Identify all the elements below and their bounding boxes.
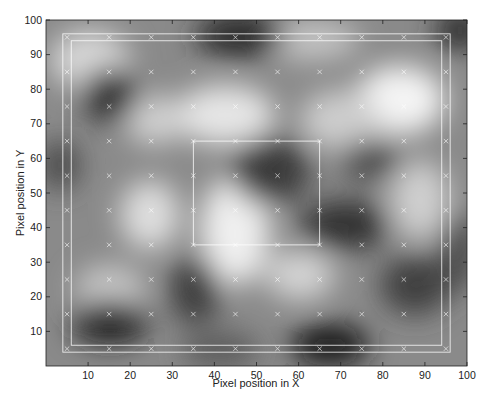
x-tick-label: 80 (377, 369, 389, 381)
heatmap-figure: 102030405060708090100 102030405060708090… (0, 0, 487, 403)
y-tick-label: 50 (30, 187, 42, 199)
x-tick-label: 20 (124, 369, 136, 381)
y-tick-label: 80 (30, 83, 42, 95)
x-tick-label: 70 (335, 369, 347, 381)
y-tick-label: 60 (30, 152, 42, 164)
y-tick-label: 30 (30, 256, 42, 268)
y-tick-label: 100 (24, 14, 42, 26)
x-axis-label: Pixel position in X (213, 377, 300, 389)
y-axis-label: Pixel position in Y (14, 149, 26, 236)
grayscale-image (40, 10, 485, 368)
x-tick-label: 90 (419, 369, 431, 381)
y-tick-label: 90 (30, 48, 42, 60)
x-tick-label: 30 (166, 369, 178, 381)
x-tick-label: 10 (82, 369, 94, 381)
y-tick-label: 40 (30, 221, 42, 233)
y-tick-label: 10 (30, 325, 42, 337)
y-tick-label: 20 (30, 290, 42, 302)
y-tick-label: 70 (30, 117, 42, 129)
x-tick-label: 100 (458, 369, 476, 381)
